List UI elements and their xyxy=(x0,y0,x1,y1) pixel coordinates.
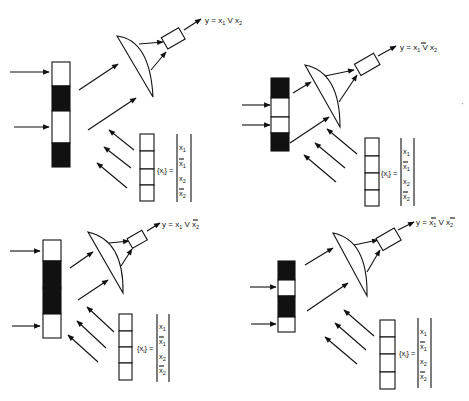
reference-column xyxy=(140,134,154,201)
svg-text:y = x1 V x2: y = x1 V x2 xyxy=(162,220,199,230)
reference-arrow xyxy=(87,307,114,332)
svg-text:x2: x2 xyxy=(159,352,166,362)
reference-arrow xyxy=(77,321,106,348)
output-label: y = x1 V x2 xyxy=(162,220,199,230)
output-arrow xyxy=(184,19,201,30)
reference-vector: {xi} = x1 x1 x2 x2 xyxy=(381,138,414,206)
svg-text:x1: x1 xyxy=(179,143,186,153)
reference-arrow xyxy=(315,143,345,168)
svg-text:x1: x1 xyxy=(159,337,166,347)
output-label: y = x1 V x2 xyxy=(400,43,437,53)
optical-logic-figure: y = x1 V x2 {xi} = x1 x1 x2 x2 xyxy=(0,0,469,401)
beam-arrow xyxy=(293,82,311,93)
reference-arrow xyxy=(97,163,127,188)
beam-arrow xyxy=(307,283,348,311)
svg-text:x2: x2 xyxy=(403,177,410,187)
panel-bottom-left: y = x1 V x2 {xi} = x1 x1 x2 x2 xyxy=(10,220,199,382)
beam-arrow xyxy=(290,117,329,143)
panel-bottom-right: y = x1 V x2 {xi} = x1 x1 x2 x2 xyxy=(250,218,455,389)
lens-icon xyxy=(333,233,367,296)
svg-text:y = x1 V x2: y = x1 V x2 xyxy=(400,43,437,53)
svg-text:x1: x1 xyxy=(179,159,186,169)
svg-text:y = x1 V x2: y = x1 V x2 xyxy=(205,16,242,26)
reference-arrow xyxy=(109,130,134,150)
svg-text:x2: x2 xyxy=(403,192,410,202)
svg-text:x1: x1 xyxy=(420,327,427,337)
beam-arrow xyxy=(79,64,118,90)
lens-icon xyxy=(117,36,153,97)
output-label: y = x1 V x2 xyxy=(205,16,242,26)
svg-text:x1: x1 xyxy=(420,342,427,352)
reference-arrow xyxy=(304,155,336,182)
svg-text:x2: x2 xyxy=(179,174,186,184)
svg-text:{xi} =: {xi} = xyxy=(157,166,174,176)
detector-icon xyxy=(127,230,147,248)
mask-bar xyxy=(43,240,61,338)
reference-arrow xyxy=(344,310,374,336)
output-label: y = x1 V x2 xyxy=(416,218,455,228)
reference-column xyxy=(380,320,395,389)
svg-text:{xi} =: {xi} = xyxy=(137,344,154,354)
svg-text:x2: x2 xyxy=(420,372,427,382)
reference-arrow xyxy=(104,147,131,168)
beam-arrow xyxy=(78,280,108,300)
output-arrow xyxy=(378,46,396,56)
svg-text:x2: x2 xyxy=(179,189,186,199)
panel-top-right: y = x1 V x2 {xi} = x1 x1 x2 x2 ' xyxy=(242,43,463,206)
detector-icon xyxy=(376,228,401,251)
svg-text:{xi} =: {xi} = xyxy=(381,169,398,179)
mask-bar xyxy=(52,62,70,167)
reference-vector: {xi} = x1 x1 x2 x2 xyxy=(399,318,431,388)
svg-text:x2: x2 xyxy=(159,366,166,376)
detector-icon xyxy=(161,28,185,49)
beam-arrow xyxy=(88,98,136,130)
reference-arrow xyxy=(68,335,98,362)
mask-bar xyxy=(278,261,295,332)
output-arrow xyxy=(398,222,414,230)
reference-vector: {xi} = x1 x1 x2 x2 xyxy=(157,134,191,202)
output-arrow xyxy=(147,223,160,231)
reference-column xyxy=(119,314,132,380)
svg-text:x1: x1 xyxy=(403,162,410,172)
reference-column xyxy=(365,138,379,206)
reference-arrow xyxy=(335,323,366,350)
svg-text:x2: x2 xyxy=(420,357,427,367)
reference-arrow xyxy=(327,129,357,154)
svg-text:x1: x1 xyxy=(159,322,166,332)
svg-text:y = x1 V x2: y = x1 V x2 xyxy=(416,218,453,228)
svg-text:x1: x1 xyxy=(403,147,410,157)
mask-bar xyxy=(271,78,289,151)
beam-arrow xyxy=(70,252,93,268)
lens-icon xyxy=(88,232,123,293)
reference-arrow xyxy=(325,337,357,364)
detector-icon xyxy=(354,53,380,75)
beam-arrow xyxy=(305,248,333,265)
reference-vector: {xi} = x1 x1 x2 x2 xyxy=(137,314,169,382)
svg-text:{xi} =: {xi} = xyxy=(399,349,416,359)
stray-mark: ' xyxy=(462,102,463,108)
panel-top-left: y = x1 V x2 {xi} = x1 x1 x2 x2 xyxy=(10,16,242,202)
